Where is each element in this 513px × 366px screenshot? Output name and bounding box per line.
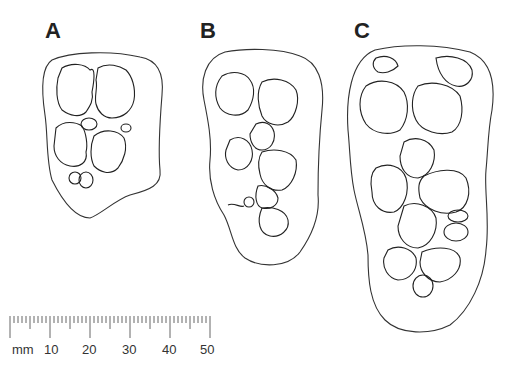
- scale-tick-label-40: 40: [162, 342, 176, 357]
- scale-tick-label-20: 20: [82, 342, 96, 357]
- tooth-c-drawing: [348, 46, 494, 332]
- tooth-b-drawing: [203, 49, 323, 265]
- scale-unit-label: mm: [12, 342, 34, 357]
- tooth-a-drawing: [43, 53, 163, 218]
- scale-tick-label-30: 30: [122, 342, 136, 357]
- drawings: [0, 0, 513, 366]
- tooth-outline-figure: A B C: [0, 0, 513, 366]
- scale-tick-label-10: 10: [44, 342, 58, 357]
- scale-tick-label-50: 50: [200, 342, 214, 357]
- scale-bar-ticks: [10, 316, 210, 338]
